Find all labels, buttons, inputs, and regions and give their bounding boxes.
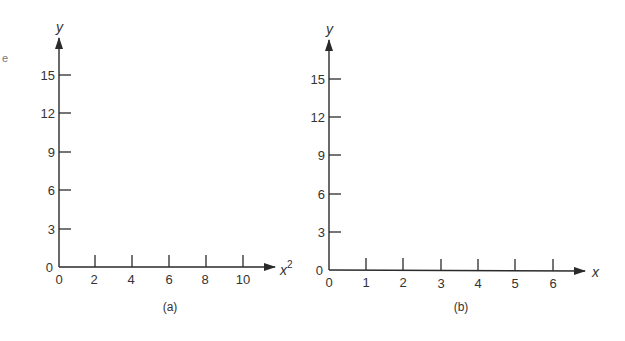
svg-text:1: 1 [362, 275, 369, 290]
y-axis-label-a: y [55, 19, 64, 35]
svg-text:0: 0 [316, 263, 323, 278]
svg-text:6: 6 [165, 272, 172, 287]
svg-text:3: 3 [48, 222, 55, 237]
x-ticks-b: 0 1 2 3 4 5 6 [325, 258, 556, 291]
svg-text:15: 15 [41, 68, 55, 83]
caption-b: (b) [454, 300, 469, 314]
caption-a: (a) [163, 300, 178, 314]
x-axis-b [329, 270, 585, 271]
svg-text:0: 0 [46, 260, 53, 275]
y-ticks-a: 0 3 6 9 12 15 [41, 68, 71, 275]
svg-text:3: 3 [437, 276, 444, 291]
svg-text:6: 6 [48, 183, 55, 198]
svg-text:15: 15 [311, 72, 325, 87]
svg-text:2: 2 [399, 275, 406, 290]
svg-text:3: 3 [318, 225, 325, 240]
svg-text:4: 4 [474, 276, 481, 291]
y-axis-label-b: y [325, 21, 334, 37]
svg-text:9: 9 [48, 145, 55, 160]
chart-panel-a: y x2 0 3 6 9 12 15 0 2 4 6 8 [41, 19, 293, 314]
y-ticks-b: 0 3 6 9 12 15 [311, 72, 341, 278]
svg-text:6: 6 [318, 187, 325, 202]
chart-panel-b: y x 0 3 6 9 12 15 0 1 2 3 [311, 21, 600, 314]
svg-text:12: 12 [311, 110, 325, 125]
x-ticks-a: 0 2 4 6 8 10 [55, 255, 250, 287]
x-axis-label-b: x [591, 264, 600, 280]
svg-text:2: 2 [90, 272, 97, 287]
svg-text:12: 12 [41, 106, 55, 121]
svg-text:9: 9 [318, 148, 325, 163]
svg-text:0: 0 [325, 275, 332, 290]
svg-text:10: 10 [236, 272, 250, 287]
x-axis-label-a: x2 [279, 259, 293, 278]
svg-text:4: 4 [127, 272, 134, 287]
stray-mark: e [2, 52, 8, 64]
svg-text:6: 6 [549, 276, 556, 291]
svg-text:5: 5 [511, 276, 518, 291]
svg-text:0: 0 [55, 272, 62, 287]
figure: e y x2 0 3 6 9 12 15 0 2 [0, 0, 625, 341]
svg-text:8: 8 [201, 272, 208, 287]
